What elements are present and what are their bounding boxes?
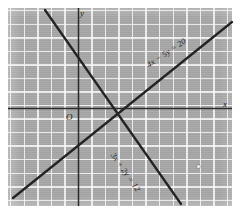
line-3x-2y-12: [45, 10, 181, 204]
origin-label: O: [66, 113, 73, 122]
graph-overlay: [0, 0, 243, 214]
graph-figure: y x O 4x − 5y = 20 3x + 2y = 12: [0, 0, 243, 214]
x-axis-label: x: [223, 100, 227, 109]
paper-speck: [197, 165, 200, 168]
y-axis-label: y: [80, 9, 84, 18]
